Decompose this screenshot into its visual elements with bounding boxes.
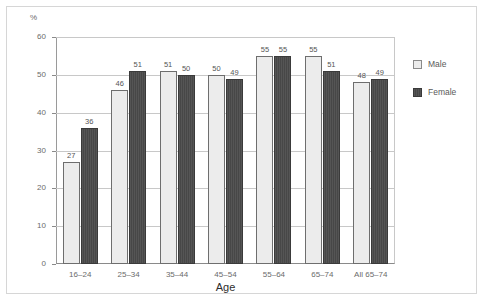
y-tick-label: 40 bbox=[20, 108, 46, 117]
y-tick-mark bbox=[52, 75, 56, 76]
y-tick-mark bbox=[52, 151, 56, 152]
y-tick-label: 0 bbox=[20, 259, 46, 268]
bar-female bbox=[226, 79, 243, 264]
bar-female bbox=[371, 79, 388, 264]
legend-item-female: Female bbox=[413, 87, 473, 115]
bar-value-label: 50 bbox=[174, 64, 199, 73]
bar-female bbox=[81, 128, 98, 264]
bar-chart: % 0102030405060 273646515150504955555551… bbox=[0, 0, 485, 302]
bar-value-label: 49 bbox=[367, 68, 392, 77]
bar-male bbox=[111, 90, 128, 264]
bar-value-label: 51 bbox=[125, 60, 150, 69]
bar-male bbox=[208, 75, 225, 264]
bar-male bbox=[63, 162, 80, 264]
legend-swatch-male bbox=[413, 60, 422, 69]
gridline bbox=[56, 37, 395, 38]
x-tick-label: 55–64 bbox=[250, 270, 298, 280]
legend-label-male: Male bbox=[428, 59, 446, 70]
x-axis-title: Age bbox=[56, 281, 395, 293]
x-tick-label: 65–74 bbox=[298, 270, 346, 280]
y-tick-mark bbox=[52, 37, 56, 38]
y-tick-label: 50 bbox=[20, 70, 46, 79]
bar-value-label: 55 bbox=[301, 45, 326, 54]
bar-value-label: 49 bbox=[222, 68, 247, 77]
legend-swatch-female bbox=[413, 88, 422, 97]
x-tick-label: 16–24 bbox=[56, 270, 104, 280]
bar-value-label: 55 bbox=[270, 45, 295, 54]
bar-male bbox=[256, 56, 273, 264]
bar-female bbox=[274, 56, 291, 264]
y-tick-mark bbox=[52, 113, 56, 114]
y-tick-label: 30 bbox=[20, 146, 46, 155]
chart-legend: Male Female bbox=[413, 59, 473, 115]
y-axis-unit-label: % bbox=[30, 13, 37, 22]
y-tick-mark bbox=[52, 188, 56, 189]
y-tick-label: 20 bbox=[20, 183, 46, 192]
bar-value-label: 36 bbox=[77, 117, 102, 126]
bar-male bbox=[160, 71, 177, 264]
bar-female bbox=[129, 71, 146, 264]
x-tick-label: 45–54 bbox=[201, 270, 249, 280]
y-tick-label: 60 bbox=[20, 32, 46, 41]
bar-female bbox=[323, 71, 340, 264]
x-tick-label: All 65–74 bbox=[347, 270, 395, 280]
y-tick-label: 10 bbox=[20, 221, 46, 230]
y-tick-mark bbox=[52, 264, 56, 265]
x-tick-label: 35–44 bbox=[153, 270, 201, 280]
legend-item-male: Male bbox=[413, 59, 473, 87]
x-tick-label: 25–34 bbox=[104, 270, 152, 280]
bar-male bbox=[305, 56, 322, 264]
y-tick-mark bbox=[52, 226, 56, 227]
chart-screenshot: % 0102030405060 273646515150504955555551… bbox=[0, 0, 485, 302]
bar-value-label: 51 bbox=[319, 60, 344, 69]
bar-female bbox=[178, 75, 195, 264]
bar-male bbox=[353, 82, 370, 264]
legend-label-female: Female bbox=[428, 87, 456, 98]
